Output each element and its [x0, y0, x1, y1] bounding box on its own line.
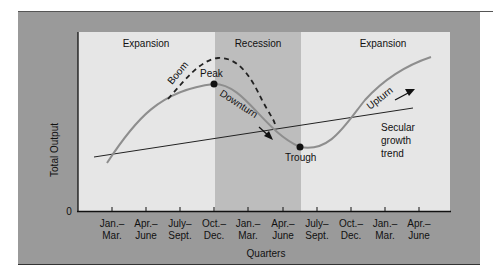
trough-label: Trough: [285, 152, 316, 163]
svg-text:Apr.–: Apr.–: [407, 218, 431, 229]
svg-text:June: June: [408, 230, 430, 241]
svg-text:Dec.: Dec.: [204, 230, 225, 241]
svg-text:July–: July–: [168, 218, 192, 229]
trend-label-line1: Secular: [381, 122, 416, 133]
expansion-region-1: [78, 32, 215, 211]
svg-text:Oct.–: Oct.–: [339, 218, 363, 229]
svg-text:Apr.–: Apr.–: [134, 218, 158, 229]
svg-text:Jan.–: Jan.–: [373, 218, 398, 229]
business-cycle-diagram: Expansion Recession Expansion Boom Peak …: [0, 0, 493, 279]
svg-text:June: June: [272, 230, 294, 241]
svg-text:Jan.–: Jan.–: [100, 218, 125, 229]
x-axis-label: Quarters: [247, 248, 286, 259]
phase-label-recession: Recession: [235, 38, 282, 49]
svg-text:Mar.: Mar.: [375, 230, 394, 241]
trend-label-line3: trend: [381, 148, 404, 159]
svg-text:Sept.: Sept.: [168, 230, 191, 241]
svg-text:Jan.–: Jan.–: [236, 218, 261, 229]
trend-label-line2: growth: [381, 135, 411, 146]
peak-label: Peak: [200, 68, 224, 79]
svg-text:Apr.–: Apr.–: [271, 218, 295, 229]
svg-text:July–: July–: [305, 218, 329, 229]
y-axis-label: Total Output: [49, 123, 60, 177]
trough-point: [297, 144, 304, 151]
svg-text:Mar.: Mar.: [102, 230, 121, 241]
x-tick-labels: Jan.– Mar. Apr.– June July– Sept. Oct.– …: [100, 218, 431, 241]
svg-text:Dec.: Dec.: [341, 230, 362, 241]
phase-label-expansion-2: Expansion: [360, 38, 407, 49]
svg-text:Oct.–: Oct.–: [202, 218, 226, 229]
svg-text:Sept.: Sept.: [305, 230, 328, 241]
peak-point: [211, 81, 218, 88]
svg-text:June: June: [135, 230, 157, 241]
phase-label-expansion-1: Expansion: [123, 38, 170, 49]
svg-text:Mar.: Mar.: [238, 230, 257, 241]
y-origin-label: 0: [66, 206, 72, 217]
